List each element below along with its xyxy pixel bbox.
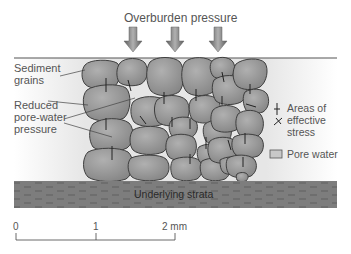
label-line: effective <box>287 114 326 126</box>
scale-tick-0: 0 <box>13 221 19 233</box>
label-line: stress <box>287 126 326 138</box>
label-line: grains <box>14 74 60 86</box>
label-line: pressure <box>14 123 67 135</box>
scale-tick-1: 1 <box>93 221 99 233</box>
label-line: Sediment <box>14 62 60 74</box>
legend-pore-water-label: Pore water <box>287 148 338 160</box>
pore-water-swatch <box>270 150 282 158</box>
scale-bar <box>16 233 175 240</box>
sediment-grains <box>82 57 269 181</box>
label-line: Reduced <box>14 99 67 111</box>
scale-tick-2mm: 2 mm <box>162 221 187 233</box>
overburden-pressure-title: Overburden pressure <box>124 12 237 24</box>
legend-effective-stress-label: Areas of effective stress <box>287 102 326 138</box>
label-line: pore-water <box>14 111 67 123</box>
label-sediment-grains: Sediment grains <box>14 62 60 86</box>
underlying-strata-label: Underlying strata <box>134 188 213 200</box>
diagram-canvas: Overburden pressure Sediment grains Redu… <box>0 0 351 254</box>
label-reduced-pore-water-pressure: Reduced pore-water pressure <box>14 99 67 135</box>
overburden-arrows <box>124 27 227 52</box>
label-line: Areas of <box>287 102 326 114</box>
